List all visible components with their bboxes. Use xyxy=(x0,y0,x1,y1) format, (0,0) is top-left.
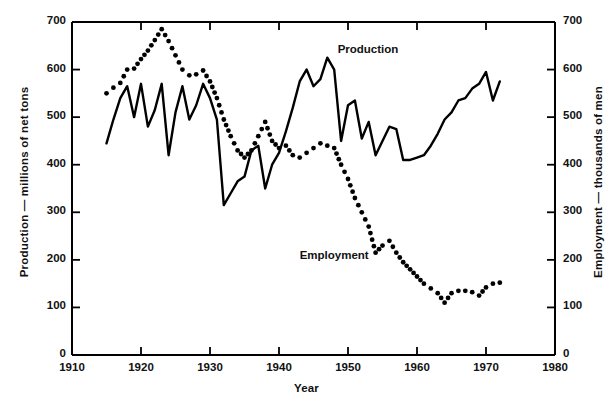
series-data-point xyxy=(246,152,251,157)
series-data-point xyxy=(377,247,382,252)
series-data-point xyxy=(287,148,292,153)
chart-figure: Production — millions of net tons Employ… xyxy=(0,0,613,407)
series-data-point xyxy=(111,85,116,90)
series-data-point xyxy=(239,152,244,157)
y-axis-left-tick-label: 200 xyxy=(24,252,66,264)
y-axis-right-tick-label: 400 xyxy=(563,157,605,169)
series-data-point xyxy=(217,103,222,108)
series-label-production: Production xyxy=(338,43,399,55)
series-data-point xyxy=(156,32,161,37)
series-data-point xyxy=(170,46,175,51)
x-axis-tick-label: 1920 xyxy=(116,361,166,373)
series-data-point xyxy=(267,132,272,137)
series-data-point xyxy=(311,146,316,151)
series-data-point xyxy=(401,260,406,265)
series-data-point xyxy=(370,237,375,242)
y-axis-left-tick-label: 300 xyxy=(24,204,66,216)
series-label-employment: Employment xyxy=(300,249,369,261)
series-data-point xyxy=(387,238,392,243)
series-data-point xyxy=(304,150,309,155)
y-axis-right-tick-label: 0 xyxy=(563,347,605,359)
series-data-point xyxy=(368,231,373,236)
y-axis-right-tick-label: 300 xyxy=(563,204,605,216)
x-axis-title: Year xyxy=(0,382,613,394)
series-data-point xyxy=(435,291,440,296)
y-axis-right-tick-label: 600 xyxy=(563,62,605,74)
series-data-point xyxy=(142,52,147,57)
series-data-point xyxy=(163,33,168,38)
chart-series xyxy=(104,27,502,305)
series-data-point xyxy=(477,293,482,298)
series-data-point xyxy=(373,250,378,255)
x-axis-tick-label: 1950 xyxy=(323,361,373,373)
series-data-point xyxy=(491,281,496,286)
series-data-point xyxy=(366,224,371,229)
series-data-point xyxy=(252,141,257,146)
series-data-point xyxy=(397,255,402,260)
series-data-point xyxy=(422,281,427,286)
y-axis-left-tick-label: 600 xyxy=(24,62,66,74)
series-data-point xyxy=(224,123,229,128)
series-data-point xyxy=(411,271,416,276)
series-data-point xyxy=(180,67,185,72)
series-data-point xyxy=(318,141,323,146)
series-data-point xyxy=(270,139,275,144)
x-axis-tick-label: 1910 xyxy=(47,361,97,373)
series-data-point xyxy=(277,146,282,151)
series-data-point xyxy=(187,73,192,78)
series-data-point xyxy=(449,291,454,296)
series-data-point xyxy=(204,74,209,79)
series-data-point xyxy=(342,169,347,174)
series-data-point xyxy=(104,91,109,96)
series-data-point xyxy=(139,57,144,62)
series-data-point xyxy=(394,250,399,255)
y-axis-right-tick-label: 500 xyxy=(563,109,605,121)
series-data-point xyxy=(336,157,341,162)
chart-axes xyxy=(72,22,555,355)
y-axis-left-tick-label: 400 xyxy=(24,157,66,169)
y-axis-left-tick-label: 500 xyxy=(24,109,66,121)
series-data-point xyxy=(418,278,423,283)
series-data-point xyxy=(221,117,226,122)
series-data-point xyxy=(118,80,123,85)
series-data-point xyxy=(456,288,461,293)
series-data-point xyxy=(439,296,444,301)
series-employment-dots xyxy=(104,27,502,305)
series-data-point xyxy=(273,142,278,147)
series-data-point xyxy=(359,210,364,215)
series-data-point xyxy=(442,300,447,305)
y-axis-right-tick-label: 200 xyxy=(563,252,605,264)
series-data-point xyxy=(121,74,126,79)
y-axis-left-tick-label: 700 xyxy=(24,14,66,26)
series-data-point xyxy=(297,155,302,160)
series-data-point xyxy=(334,151,339,156)
x-axis-tick-label: 1930 xyxy=(185,361,235,373)
series-data-point xyxy=(390,244,395,249)
series-data-point xyxy=(132,66,137,71)
series-data-point xyxy=(332,146,337,151)
series-data-point xyxy=(242,155,247,160)
series-data-point xyxy=(219,110,224,115)
series-data-point xyxy=(408,267,413,272)
series-data-point xyxy=(194,72,199,77)
x-axis-tick-label: 1960 xyxy=(392,361,442,373)
series-data-point xyxy=(348,183,353,188)
series-data-point xyxy=(228,134,233,139)
x-axis-tick-label: 1940 xyxy=(254,361,304,373)
series-data-point xyxy=(484,285,489,290)
series-data-point xyxy=(208,79,213,84)
series-data-point xyxy=(249,148,254,153)
series-data-point xyxy=(152,38,157,43)
series-data-point xyxy=(235,148,240,153)
series-data-point xyxy=(339,162,344,167)
series-data-point xyxy=(201,68,206,73)
series-data-point xyxy=(210,85,215,90)
series-data-point xyxy=(215,96,220,101)
chart-tick-marks xyxy=(72,22,555,355)
series-data-point xyxy=(415,274,420,279)
series-data-point xyxy=(497,280,502,285)
series-data-point xyxy=(166,39,171,44)
y-axis-left-tick-label: 100 xyxy=(24,299,66,311)
series-data-point xyxy=(259,127,264,132)
series-data-point xyxy=(226,128,231,133)
